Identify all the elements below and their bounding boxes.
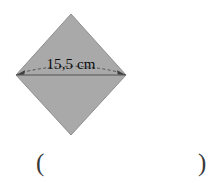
answer-row: ( ) <box>0 148 219 178</box>
dimension-label: 15,5 cm <box>0 56 142 73</box>
rhombus-figure: 15,5 cm ( ) <box>0 0 219 183</box>
answer-open-paren: ( <box>36 148 44 178</box>
answer-close-paren: ) <box>198 148 206 178</box>
